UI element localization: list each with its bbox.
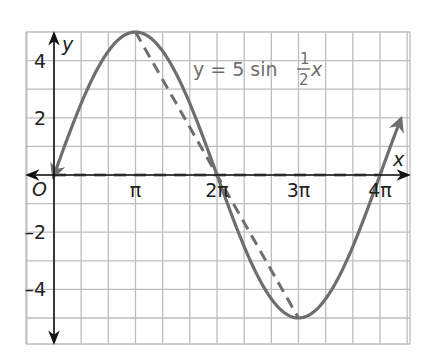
equation-frac-denominator: 2	[299, 71, 309, 89]
x-axis-label: x	[392, 148, 405, 170]
equation-suffix: x	[310, 58, 323, 80]
equation-prefix: y = 5 sin	[193, 58, 278, 80]
x-tick-label: 4π	[368, 179, 392, 201]
y-tick-label: –4	[24, 278, 46, 300]
x-tick-label: 2π	[205, 179, 229, 201]
y-tick-label: –2	[24, 221, 46, 243]
x-tick-label: 3π	[287, 179, 311, 201]
x-tick-label: π	[130, 179, 141, 201]
y-tick-label: 2	[34, 107, 46, 129]
y-tick-label: 4	[34, 50, 46, 72]
chart: y x O y = 5 sin 1 2 x π2π3π4π42–2–4	[0, 0, 425, 364]
equation-label: y = 5 sin	[193, 58, 278, 80]
origin-label: O	[32, 178, 47, 200]
equation-frac-numerator: 1	[300, 50, 310, 68]
y-axis-label: y	[61, 33, 74, 55]
